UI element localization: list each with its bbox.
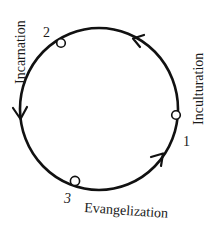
node-1-number: 1 <box>183 134 190 149</box>
node-2-label: Incarnation <box>13 20 28 84</box>
node-1 <box>172 111 181 120</box>
node-3-label: Evangelization <box>84 200 169 221</box>
node-3 <box>70 176 79 185</box>
node-2 <box>57 39 66 48</box>
node-1-label: Inculturation <box>191 53 206 125</box>
node-3-number: 3 <box>63 191 71 206</box>
node-2-number: 2 <box>43 25 50 40</box>
cycle-ring <box>20 28 178 190</box>
cycle-diagram: 1 Inculturation 2 Incarnation 3 Evangeli… <box>0 0 212 226</box>
